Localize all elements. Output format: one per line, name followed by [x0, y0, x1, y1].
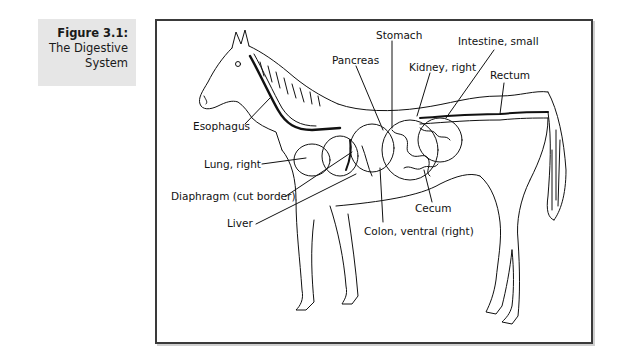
label-esophagus: Esophagus: [193, 120, 250, 132]
digestive-organs-icon: [294, 118, 462, 180]
label-rectum: Rectum: [490, 69, 530, 81]
horse-illustration: [0, 0, 625, 364]
label-diaphragm: Diaphragm (cut border): [171, 190, 295, 202]
horse-tail-icon: [547, 92, 566, 220]
label-intestine-small: Intestine, small: [458, 35, 539, 47]
label-kidney-right: Kidney, right: [409, 61, 476, 73]
label-lung-right: Lung, right: [204, 158, 261, 170]
label-cecum: Cecum: [415, 202, 451, 214]
label-pancreas: Pancreas: [332, 54, 379, 66]
label-colon-ventral: Colon, ventral (right): [364, 225, 474, 237]
label-stomach: Stomach: [376, 29, 422, 41]
label-liver: Liver: [227, 217, 253, 229]
